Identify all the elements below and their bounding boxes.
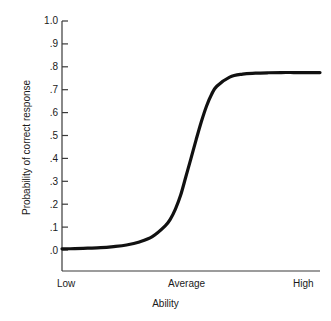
y-tick-label: .1 — [20, 223, 58, 233]
x-axis-title: Ability — [0, 299, 331, 309]
y-axis-title: Probability of correct response — [22, 80, 32, 215]
item-characteristic-curve — [62, 73, 320, 249]
y-tick-label: .9 — [20, 39, 58, 49]
x-category-label-high: High — [293, 279, 314, 289]
y-tick-label: .8 — [20, 62, 58, 72]
y-axis-ticks — [62, 21, 68, 250]
y-tick-label: 1.0 — [20, 16, 58, 26]
x-category-label-average: Average — [168, 279, 205, 289]
x-category-label-low: Low — [57, 279, 75, 289]
y-tick-label: .0 — [20, 246, 58, 256]
chart-figure: 1.0 .9 .8 .7 .6 .5 .4 .3 .2 .1 .0 Low Av… — [0, 0, 331, 321]
